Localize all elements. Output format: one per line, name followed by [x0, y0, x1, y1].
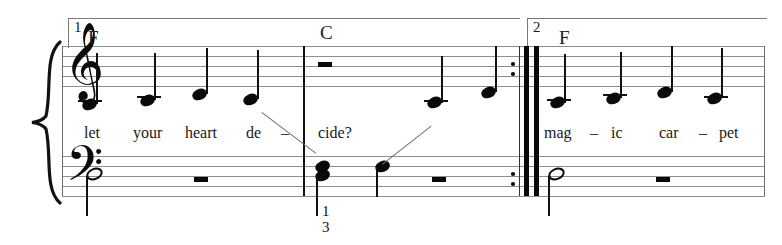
lyric-heart: heart: [185, 124, 217, 142]
system-left-barline: [62, 46, 63, 196]
lyric-de: de: [246, 124, 261, 142]
lyric-let: let: [84, 124, 100, 142]
stem-mag: [564, 54, 566, 103]
stem-let: [96, 53, 98, 104]
chord-symbol-f-second-ending: F: [559, 27, 570, 49]
lyric-hyphen-de-cide: –: [281, 124, 289, 142]
half-rest-bass-m2: [432, 177, 446, 182]
stem-car: [671, 46, 673, 92]
stem-de: [257, 50, 259, 99]
stem-your: [154, 53, 156, 100]
lyric-mag: mag: [544, 124, 572, 142]
lyric-pet: pet: [719, 124, 739, 142]
chord-symbol-f-first-ending: F: [88, 27, 99, 49]
stem-pet: [721, 48, 723, 98]
volta-1-bracket: [68, 18, 520, 48]
repeat-dot-bass-lower: [511, 182, 515, 186]
piano-brace: [26, 40, 66, 205]
fingering-3: 3: [322, 219, 330, 236]
end-repeat-thin-line: [519, 46, 520, 196]
end-repeat-thick-line: [524, 46, 529, 196]
treble-staff-line-3: [62, 66, 765, 67]
repeat-dot-treble-lower: [511, 72, 515, 76]
system-end-barline: [764, 46, 765, 196]
half-rest-treble-m2: [318, 62, 332, 67]
stem-bass-m1-half: [86, 176, 88, 216]
second-ending-start-barline: [534, 46, 539, 196]
sheet-music-image: 𝄞 𝄢 1 2 F C F 1 3: [0, 0, 782, 245]
bass-staff-line-5: [62, 156, 765, 157]
repeat-dot-treble-upper: [511, 62, 515, 66]
treble-staff-line-2: [62, 76, 765, 77]
bass-staff-line-4: [62, 166, 765, 167]
chord-symbol-c: C: [320, 22, 333, 44]
half-rest-bass-m3: [656, 177, 670, 182]
bass-staff-line-1: [62, 196, 765, 197]
volta-1-number: 1: [74, 19, 82, 36]
stem-treble-m2-b: [495, 46, 497, 92]
barline-measure-1-end: [303, 46, 305, 196]
lyric-your: your: [133, 124, 162, 142]
lyric-hyphen-car-pet: –: [699, 124, 707, 142]
stem-heart: [206, 48, 208, 94]
fingering-1: 1: [322, 203, 330, 220]
lyric-cide: cide?: [318, 124, 352, 142]
lyric-ic: ic: [611, 124, 623, 142]
repeat-dot-bass-upper: [511, 172, 515, 176]
treble-staff-line-1: [62, 86, 765, 87]
stem-bass-m2-chord: [316, 176, 318, 216]
stem-treble-m2-a: [441, 56, 443, 103]
lyric-hyphen-mag-ic: –: [590, 124, 598, 142]
stem-bass-m2-single: [376, 167, 378, 197]
stem-ic: [620, 52, 622, 98]
cross-staff-connector-2: [382, 126, 431, 165]
bass-staff-line-2: [62, 186, 765, 187]
volta-2-number: 2: [533, 19, 541, 36]
half-rest-bass-m1: [194, 177, 208, 182]
stem-bass-m3-half: [548, 176, 550, 216]
lyric-car: car: [659, 124, 679, 142]
treble-staff-line-4: [62, 56, 765, 57]
